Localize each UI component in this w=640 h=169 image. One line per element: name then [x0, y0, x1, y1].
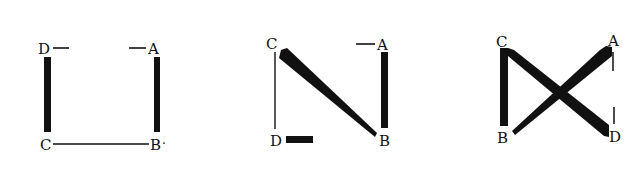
- vertex-label-b: B: [497, 129, 508, 147]
- vertex-label-c: C: [496, 33, 507, 51]
- dot-mark: ·: [162, 137, 166, 151]
- edge-a-b: [154, 57, 160, 132]
- vertex-label-a: A: [147, 40, 159, 58]
- vertex-label-b: B: [379, 132, 390, 150]
- vertex-label-c: C: [40, 136, 51, 154]
- edge-a-b: [381, 52, 388, 128]
- edge-c-b: [500, 48, 508, 126]
- edge-c-b: [279, 48, 377, 137]
- vertex-label-a: A: [607, 32, 619, 50]
- vertex-label-b: B: [150, 136, 161, 154]
- figure-1: D A C B ·: [38, 40, 166, 154]
- figure-2: C A D B: [266, 35, 390, 150]
- vertex-label-d: D: [270, 132, 282, 150]
- tick-d: [286, 136, 313, 143]
- edge-d-c: [44, 57, 51, 132]
- vertex-label-c: C: [266, 35, 277, 53]
- vertex-label-d: D: [38, 40, 50, 58]
- vertex-label-a: A: [376, 36, 388, 54]
- diagram-canvas: D A C B · C A D B C A B D: [0, 0, 640, 169]
- figure-3: C A B D: [496, 32, 621, 147]
- vertex-label-d: D: [609, 128, 621, 146]
